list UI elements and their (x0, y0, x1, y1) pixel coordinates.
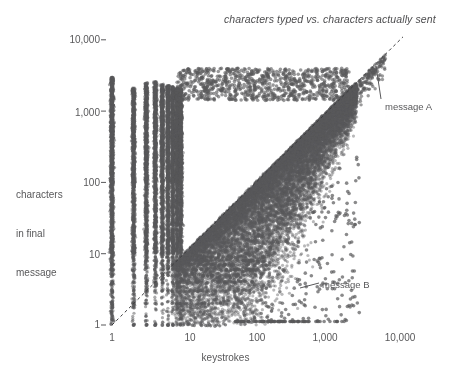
x-axis-tick-label: 1 (92, 332, 132, 345)
chart-title: characters typed vs. characters actually… (224, 13, 436, 26)
annotation-label-message-b: message B (322, 279, 370, 291)
x-axis-tick-label: 10,000 (374, 332, 426, 345)
x-axis-tick-label: 1,000 (302, 332, 348, 345)
scatter-chart: characters typed vs. characters actually… (0, 0, 451, 382)
y-axis-tick-label: 10,000 (38, 34, 100, 47)
x-axis-label: keystrokes (0, 352, 451, 365)
y-axis-tick-label: 1 (38, 319, 100, 332)
y-axis-label: characters in final message (16, 162, 63, 305)
x-axis-tick-label: 100 (237, 332, 277, 345)
annotation-label-message-a: message A (385, 101, 432, 113)
y-axis-tick-label: 1,000 (38, 107, 100, 120)
x-axis-tick-label: 10 (170, 332, 210, 345)
y-axis-label-line: in final (16, 227, 63, 240)
y-axis-label-line: message (16, 266, 63, 279)
y-axis-label-line: characters (16, 188, 63, 201)
